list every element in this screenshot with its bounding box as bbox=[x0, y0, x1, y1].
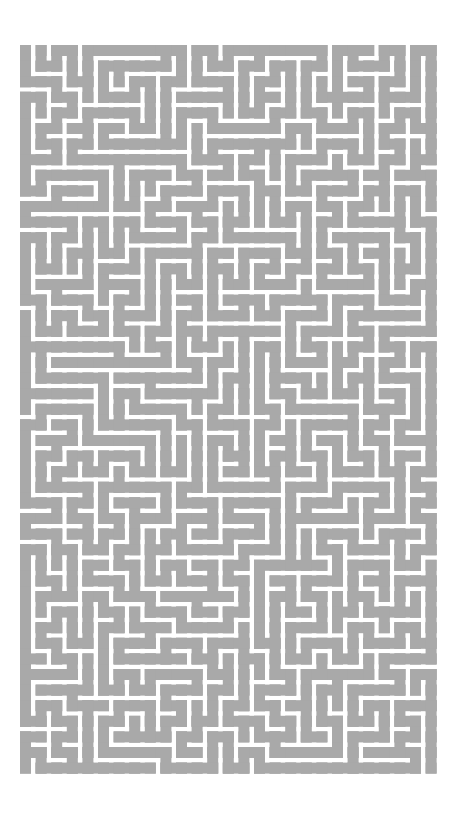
maze-passages bbox=[20, 45, 437, 774]
maze-canvas bbox=[0, 0, 466, 817]
